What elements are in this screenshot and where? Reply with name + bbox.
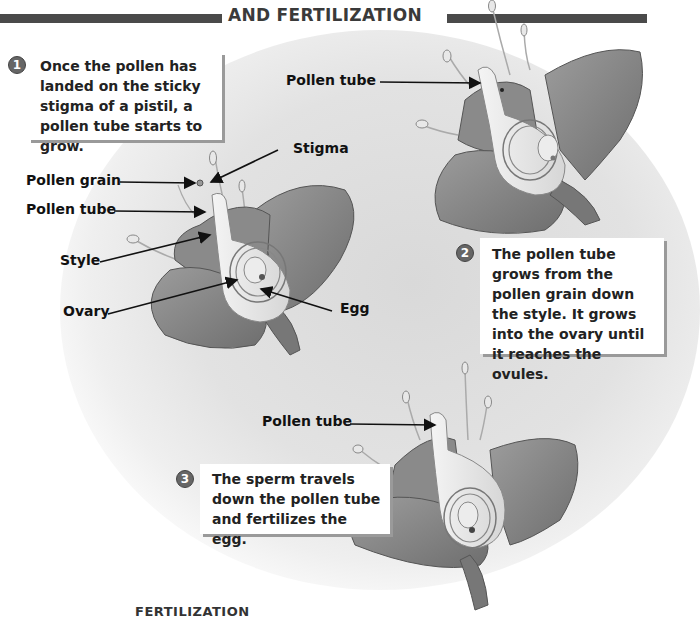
step-2-callout: The pollen tube grows from the pollen gr… [480,238,664,354]
step-2-badge: 2 [456,244,474,262]
footer-heading-partial: FERTILIZATION [135,604,250,619]
label-style: Style [60,252,100,268]
step-1-text: Once the pollen has landed on the sticky… [40,58,202,154]
step-1-badge: 1 [8,56,26,74]
label-ovary: Ovary [63,303,110,319]
flower-2 [416,0,643,233]
flower-3-arrow [350,424,435,425]
label-pollen-grain: Pollen grain [26,172,121,188]
label-pollen-tube: Pollen tube [26,201,116,217]
flower-2-arrow [380,82,480,83]
step-3-callout: The sperm travels down the pollen tube a… [200,464,390,534]
label-egg: Egg [340,300,370,316]
label-pollen-tube-2: Pollen tube [286,72,376,88]
label-pollen-tube-3: Pollen tube [262,413,352,429]
label-stigma: Stigma [293,140,349,156]
flower-1 [127,151,354,355]
step-3-badge: 3 [176,470,194,488]
step-1-callout: Once the pollen has landed on the sticky… [28,52,222,140]
